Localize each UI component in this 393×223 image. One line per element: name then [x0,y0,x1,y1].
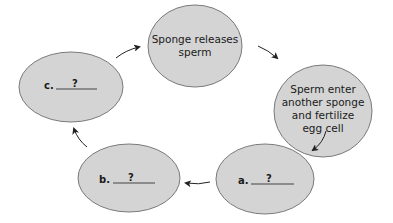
node-prefix: c. [44,80,54,91]
arrow-b-to-c [74,129,87,147]
node-text-line: Sperm enter [290,83,356,95]
node-text-line: egg cell [302,122,343,134]
arrow-a-to-b [186,182,210,184]
node-text-line: sperm [179,46,212,58]
node-text-line: and fertilize [292,109,354,121]
node-c-blank: c. ? [19,52,123,122]
node-sperm-fertilize-egg: Sperm enter another sponge and fertilize… [274,65,372,157]
node-sponge-releases-sperm: Sponge releases sperm [148,5,242,87]
node-b-blank: b. ? [78,144,180,212]
question-mark: ? [72,78,78,89]
sponge-reproduction-cycle-diagram: Sponge releases sperm Sperm enter anothe… [0,0,393,223]
node-a-blank: a. ? [216,144,314,214]
node-text-line: another sponge [282,96,365,108]
node-prefix: a. [238,175,249,186]
question-mark: ? [128,172,134,183]
node-text-line: Sponge releases [152,33,239,45]
arrow-c-to-top [116,47,139,58]
node-prefix: b. [99,174,110,185]
arrow-top-to-right [258,46,277,58]
question-mark: ? [266,173,272,184]
